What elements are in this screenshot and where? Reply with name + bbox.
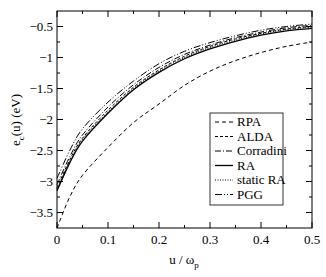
y-tick-label: −3.5 — [29, 205, 53, 220]
legend-label: ALDA — [237, 129, 274, 144]
x-tick-label: 0.2 — [151, 232, 167, 247]
legend-label: static RA — [237, 172, 286, 187]
y-axis-title: ec(u) (eV) — [8, 94, 26, 146]
y-tick-label: −3 — [39, 174, 53, 189]
y-tick-label: −0.5 — [29, 19, 53, 34]
legend-label: Corradini — [237, 143, 287, 158]
y-tick-label: −2.5 — [29, 143, 53, 158]
legend-label: RPA — [237, 114, 262, 129]
x-tick-label: 0.4 — [253, 232, 270, 247]
y-tick-label: −2 — [39, 112, 53, 127]
legend-label: PGG — [237, 187, 263, 202]
correlation-energy-chart: 00.10.20.30.40.5 −3.5−3−2.5−2−1.5−1−0.5 … — [0, 0, 326, 277]
x-axis-title: u / ωp — [169, 252, 199, 270]
y-tick-label: −1 — [39, 50, 53, 65]
x-tick-label: 0 — [54, 232, 61, 247]
x-tick-label: 0.1 — [100, 232, 116, 247]
y-tick-label: −1.5 — [29, 81, 53, 96]
x-tick-label: 0.5 — [304, 232, 320, 247]
x-tick-label: 0.3 — [202, 232, 218, 247]
legend: RPAALDACorradiniRAstatic RAPGG — [210, 113, 287, 205]
legend-label: RA — [237, 158, 256, 173]
